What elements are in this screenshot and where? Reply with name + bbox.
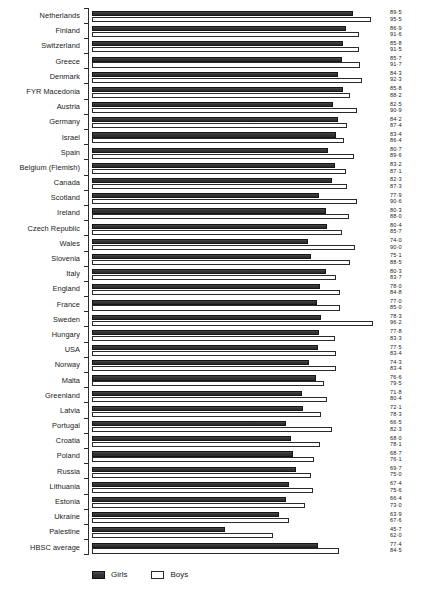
axis-tick	[84, 448, 92, 463]
axis-tick	[84, 297, 92, 312]
chart-row: Austria82·590·9	[0, 99, 424, 114]
axis-tick	[84, 99, 92, 114]
value-labels: 78·396·2	[384, 312, 424, 327]
category-label: Belgium (Flemish)	[0, 160, 84, 175]
axis-tick	[84, 388, 92, 403]
value-label-boys: 84·8	[390, 289, 424, 295]
value-label-boys: 84·5	[390, 547, 424, 553]
bar-group	[92, 130, 384, 145]
bar-girls	[92, 467, 296, 472]
category-label: Greenland	[0, 388, 84, 403]
bar-boys	[92, 169, 346, 174]
axis-tick	[84, 281, 92, 296]
bar-boys	[92, 199, 357, 204]
bar-girls	[92, 132, 336, 137]
axis-tick	[84, 509, 92, 524]
value-label-boys: 87·4	[390, 122, 424, 128]
category-label: Germany	[0, 114, 84, 129]
value-labels: 80·383·7	[384, 266, 424, 281]
axis-tick	[84, 418, 92, 433]
category-label: FYR Macedonia	[0, 84, 84, 99]
bar-boys	[92, 108, 357, 113]
category-label: Canada	[0, 175, 84, 190]
bar-group	[92, 175, 384, 190]
value-label-boys: 85·0	[390, 304, 424, 310]
chart-row: Slovenia75·188·5	[0, 251, 424, 266]
axis-tick	[84, 540, 92, 555]
bar-boys	[92, 321, 373, 326]
category-label: Austria	[0, 99, 84, 114]
chart-row: Latvia72·178·3	[0, 403, 424, 418]
chart-row: Canada82·387·3	[0, 175, 424, 190]
chart-plot-area: Netherlands89·595·5Finland86·991·6Switze…	[0, 8, 424, 564]
axis-tick	[84, 403, 92, 418]
value-label-boys: 83·4	[390, 365, 424, 371]
bar-girls	[92, 224, 327, 229]
bar-group	[92, 236, 384, 251]
chart-row: Netherlands89·595·5	[0, 8, 424, 23]
value-labels: 80·388·0	[384, 205, 424, 220]
value-labels: 82·590·9	[384, 99, 424, 114]
axis-tick	[84, 464, 92, 479]
chart-row: France77·085·0	[0, 297, 424, 312]
value-labels: 67·475·6	[384, 479, 424, 494]
bar-group	[92, 266, 384, 281]
value-label-boys: 83·3	[390, 335, 424, 341]
chart-row: Spain80·789·6	[0, 145, 424, 160]
value-label-boys: 91·7	[390, 61, 424, 67]
chart-row: Wales74·090·0	[0, 236, 424, 251]
chart-row: USA77·583·4	[0, 342, 424, 357]
chart-row: Belgium (Flemish)83·287·1	[0, 160, 424, 175]
category-label: Finland	[0, 23, 84, 38]
bar-boys	[92, 397, 327, 402]
bar-group	[92, 388, 384, 403]
axis-tick	[84, 145, 92, 160]
bar-group	[92, 145, 384, 160]
bar-group	[92, 160, 384, 175]
bar-group	[92, 8, 384, 23]
category-label: Spain	[0, 145, 84, 160]
bar-girls	[92, 421, 286, 426]
bar-group	[92, 251, 384, 266]
bar-group	[92, 342, 384, 357]
bar-group	[92, 205, 384, 220]
bar-girls	[92, 11, 353, 16]
chart-row: Israel83·486·4	[0, 130, 424, 145]
bar-girls	[92, 72, 338, 77]
value-labels: 45·762·0	[384, 524, 424, 539]
category-label: France	[0, 297, 84, 312]
value-labels: 71·880·4	[384, 388, 424, 403]
axis-tick	[84, 23, 92, 38]
axis-tick	[84, 54, 92, 69]
bar-boys	[92, 548, 339, 553]
bar-group	[92, 221, 384, 236]
bar-group	[92, 54, 384, 69]
category-label: Italy	[0, 266, 84, 281]
bar-boys	[92, 427, 332, 432]
chart-row: England78·084·8	[0, 281, 424, 296]
chart-row: Estonia66·473·0	[0, 494, 424, 509]
bar-boys	[92, 32, 359, 37]
chart-row: Finland86·991·6	[0, 23, 424, 38]
bar-boys	[92, 412, 321, 417]
bar-boys	[92, 245, 355, 250]
bar-girls	[92, 375, 316, 380]
bar-girls	[92, 57, 342, 62]
bar-girls	[92, 284, 320, 289]
value-label-boys: 88·0	[390, 213, 424, 219]
axis-tick	[84, 373, 92, 388]
value-label-boys: 95·5	[390, 16, 424, 22]
bar-group	[92, 99, 384, 114]
chart-row: Germany84·287·4	[0, 114, 424, 129]
value-label-boys: 89·6	[390, 152, 424, 158]
axis-tick	[84, 130, 92, 145]
legend-swatch-boys-icon	[151, 571, 164, 579]
chart-row: Ireland80·388·0	[0, 205, 424, 220]
axis-tick	[84, 327, 92, 342]
value-label-boys: 79·5	[390, 380, 424, 386]
chart-row: Portugal66·582·3	[0, 418, 424, 433]
axis-tick	[84, 266, 92, 281]
value-labels: 63·967·6	[384, 509, 424, 524]
chart-row: Italy80·383·7	[0, 266, 424, 281]
category-label: Sweden	[0, 312, 84, 327]
